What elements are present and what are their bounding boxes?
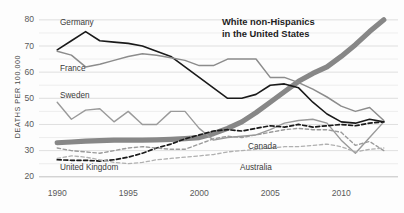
y-tick-20: 20: [8, 171, 34, 181]
us-callout-line2: in the United States: [222, 28, 315, 40]
y-tick-30: 30: [8, 145, 34, 155]
us-callout-annotation: White non-Hispanics in the United States: [222, 16, 315, 40]
series-label-australia: Australia: [240, 163, 272, 172]
x-tick-1995: 1995: [108, 188, 148, 198]
y-tick-60: 60: [8, 67, 34, 77]
series-path-australia: [57, 144, 384, 164]
chart-container: DEATHS PER 100,000 20304050607080 199019…: [0, 0, 404, 213]
y-tick-40: 40: [8, 119, 34, 129]
us-callout-line1: White non-Hispanics: [222, 16, 315, 28]
x-tick-2000: 2000: [179, 188, 219, 198]
line-chart-plot: [0, 0, 404, 213]
series-label-canada: Canada: [248, 142, 277, 151]
y-tick-80: 80: [8, 14, 34, 24]
x-tick-1990: 1990: [37, 188, 77, 198]
series-path-germany: [57, 32, 384, 124]
y-tick-70: 70: [8, 41, 34, 51]
series-label-germany: Germany: [60, 18, 94, 27]
x-tick-2010: 2010: [321, 188, 361, 198]
series-label-france: France: [60, 64, 85, 73]
y-tick-50: 50: [8, 93, 34, 103]
x-tick-2005: 2005: [250, 188, 290, 198]
series-label-sweden: Sweden: [60, 91, 90, 100]
series-label-united-kingdom: United Kingdom: [60, 163, 118, 172]
